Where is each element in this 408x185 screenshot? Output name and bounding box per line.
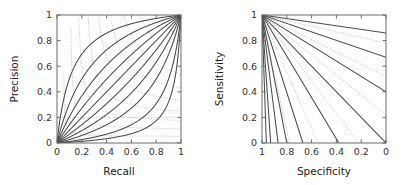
y-tick-label: 0.4: [242, 86, 257, 97]
precision-recall-panel: 00.20.40.60.8100.20.40.60.81 Recall Prec…: [0, 0, 204, 185]
roc-chart: 10.80.60.40.2000.20.40.60.81 Specificity…: [204, 0, 408, 185]
y-tick-label: 0.4: [37, 86, 52, 97]
roc-panel: 10.80.60.40.2000.20.40.60.81 Specificity…: [204, 0, 408, 185]
x-tick-label: 0.4: [99, 146, 114, 157]
x-axis-label: Recall: [103, 165, 134, 177]
x-tick-label: 0: [54, 146, 60, 157]
x-tick-label: 0: [383, 146, 389, 157]
x-tick-label: 0.6: [304, 146, 319, 157]
x-tick-label: 1: [259, 146, 265, 157]
y-tick-label: 0.6: [37, 61, 52, 72]
x-tick-label: 0.8: [149, 146, 164, 157]
y-axis-label: Precision: [8, 56, 20, 103]
x-tick-label: 0.6: [124, 146, 139, 157]
y-tick-label: 0.2: [242, 112, 257, 123]
y-tick-label: 0: [251, 137, 257, 148]
y-tick-label: 0.6: [242, 61, 257, 72]
y-tick-label: 0.2: [37, 112, 52, 123]
x-tick-label: 0.2: [74, 146, 89, 157]
y-axis-label: Sensitivity: [213, 52, 225, 107]
x-axis-label: Specificity: [297, 165, 351, 177]
y-tick-label: 1: [251, 9, 257, 20]
y-tick-label: 0: [46, 137, 52, 148]
y-tick-label: 0.8: [242, 35, 257, 46]
x-tick-label: 0.2: [354, 146, 369, 157]
x-tick-label: 0.8: [279, 146, 294, 157]
y-tick-label: 1: [46, 9, 52, 20]
y-tick-label: 0.8: [37, 35, 52, 46]
x-tick-label: 1: [178, 146, 184, 157]
precision-recall-chart: 00.20.40.60.8100.20.40.60.81 Recall Prec…: [0, 0, 204, 185]
figure-container: 00.20.40.60.8100.20.40.60.81 Recall Prec…: [0, 0, 408, 185]
x-tick-label: 0.4: [329, 146, 344, 157]
